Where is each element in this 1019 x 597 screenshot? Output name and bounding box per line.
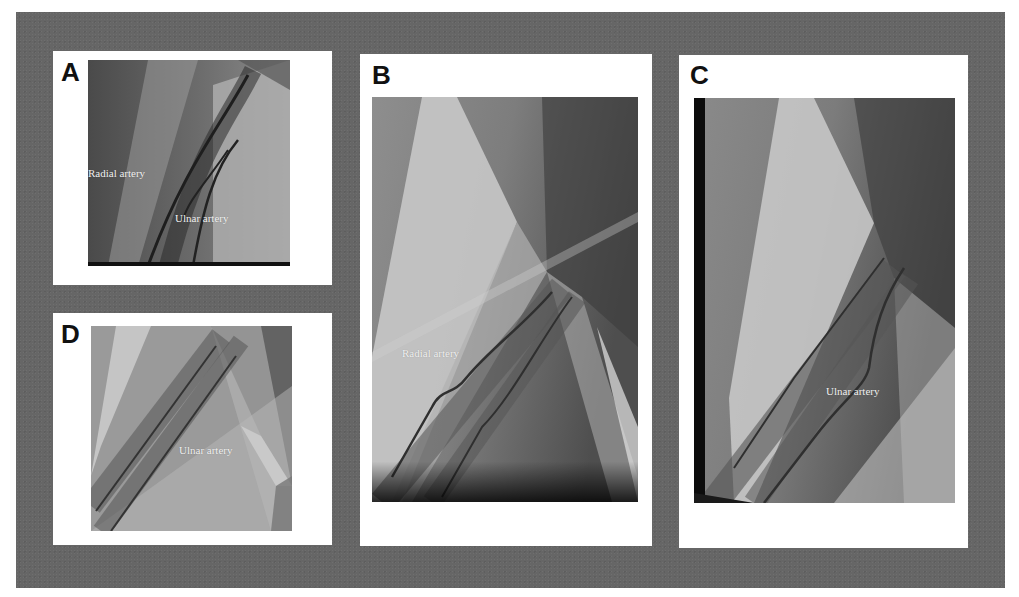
annotation-radial-artery-b: Radial artery [402, 347, 459, 359]
angiogram-image-d: Ulnar artery [91, 326, 292, 531]
panel-c: C Ulnar artery [679, 55, 968, 548]
panel-a: A Radial artery Ulnar artery [53, 51, 332, 285]
panel-label-a: A [61, 59, 80, 85]
annotation-ulnar-artery-d: Ulnar artery [179, 444, 232, 456]
angiogram-image-a: Radial artery Ulnar artery [88, 60, 290, 266]
annotation-radial-artery-a: Radial artery [88, 167, 145, 179]
panel-label-c: C [690, 62, 709, 88]
annotation-ulnar-artery-a: Ulnar artery [175, 212, 228, 224]
panel-b: B Radial artery [360, 54, 652, 546]
panel-label-b: B [372, 62, 391, 88]
angiogram-image-b: Radial artery [372, 97, 638, 502]
annotation-ulnar-artery-c: Ulnar artery [826, 385, 879, 397]
panel-d: D Ulnar artery [53, 313, 332, 545]
panel-label-d: D [61, 321, 80, 347]
angiogram-image-c: Ulnar artery [694, 98, 955, 503]
